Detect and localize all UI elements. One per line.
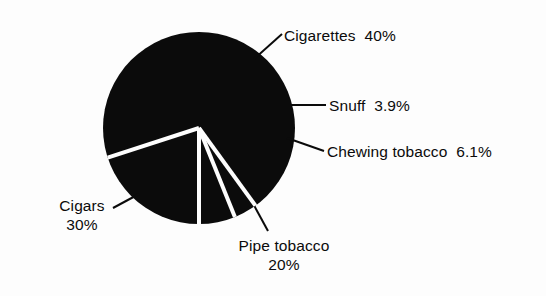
slice-label-pipe-tobacco: Pipe tobacco 20% — [204, 236, 364, 274]
slice-label-cigars-name: Cigars — [34, 196, 130, 215]
slice-label-snuff: Snuff 3.9% — [329, 96, 410, 115]
slice-label-cigars-value: 30% — [34, 215, 130, 234]
slice-label-pipe-tobacco-name: Pipe tobacco — [204, 236, 364, 255]
slice-label-cigars: Cigars 30% — [34, 196, 130, 234]
leader-line-cigarettes — [254, 34, 282, 59]
pie-chart-figure: Cigarettes 40% Snuff 3.9% Chewing tobacc… — [0, 0, 546, 296]
slice-label-cigarettes: Cigarettes 40% — [284, 26, 396, 45]
slice-label-pipe-tobacco-value: 20% — [204, 255, 364, 274]
slice-label-chewing-tobacco: Chewing tobacco 6.1% — [327, 142, 492, 161]
